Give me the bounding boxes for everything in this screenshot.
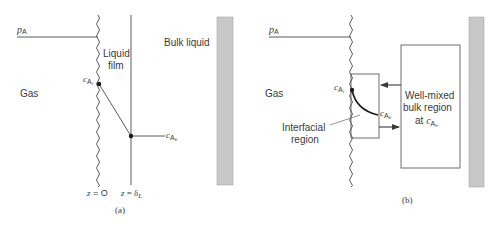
bulk-liquid-wall (217, 17, 233, 185)
interface-concentration-dot (97, 82, 101, 86)
gas-pressure-label: pA (16, 24, 27, 35)
penetration-concentration-profile (352, 90, 378, 115)
interfacial-region-pointer (330, 115, 360, 125)
gas-pressure-label: pA (268, 24, 279, 35)
interfacial-region-label-line1: Interfacial (282, 122, 325, 133)
liquid-film-label-line2: film (108, 60, 124, 71)
liquid-film-label-line1: Liquid (103, 48, 130, 59)
bulk-box-label-line2: bulk region (403, 102, 452, 113)
interface-concentration-dot (350, 88, 354, 92)
interfacial-region-label-line2: region (291, 134, 319, 145)
bulk-concentration-dot (129, 134, 133, 138)
panel-a-caption: (a) (115, 205, 125, 215)
panel-b-caption: (b) (402, 195, 413, 205)
z-delta-label: z = δL (120, 188, 142, 200)
bulk-liquid-wall (469, 17, 484, 187)
gas-liquid-interface (97, 15, 100, 187)
film-vs-penetration-diagram: pA Gas Liquid film Bulk liquid cAi cAb z… (0, 0, 491, 230)
panel-b: pA Gas cAi cAb Interfacial region Well-m… (265, 15, 484, 205)
bulk-concentration-label: cAb (380, 108, 392, 120)
gas-label: Gas (265, 88, 283, 99)
gas-label: Gas (20, 88, 38, 99)
interface-concentration-label: cAi (334, 82, 345, 94)
z-zero-label: z = O (86, 188, 108, 198)
bulk-concentration-label: cAb (166, 130, 178, 142)
linear-concentration-profile (99, 84, 131, 136)
bulk-liquid-label: Bulk liquid (164, 37, 210, 48)
bulk-box-label-line3: at cAb (415, 115, 438, 128)
interface-concentration-label: cAi (83, 74, 94, 86)
interfacial-region-box (351, 74, 379, 138)
bulk-box-label-line1: Well-mixed (405, 90, 454, 101)
panel-a: pA Gas Liquid film Bulk liquid cAi cAb z… (16, 15, 233, 215)
